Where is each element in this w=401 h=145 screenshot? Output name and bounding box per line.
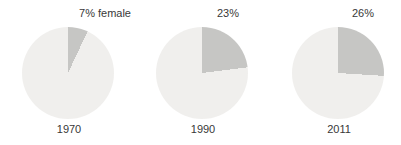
pct-label-2011: 26% [352, 7, 374, 20]
pie-chart-figure: 7% female 23% 26% 1970 1990 2011 [0, 0, 401, 145]
pct-label-1990: 23% [217, 7, 239, 20]
pie-1970 [22, 27, 114, 119]
year-label-1970: 1970 [57, 123, 81, 136]
pct-label-1970: 7% female [79, 7, 131, 20]
year-label-2011: 2011 [327, 123, 351, 136]
year-label-1990: 1990 [191, 123, 215, 136]
pie-2011 [292, 27, 384, 119]
pie-1990 [156, 27, 248, 119]
